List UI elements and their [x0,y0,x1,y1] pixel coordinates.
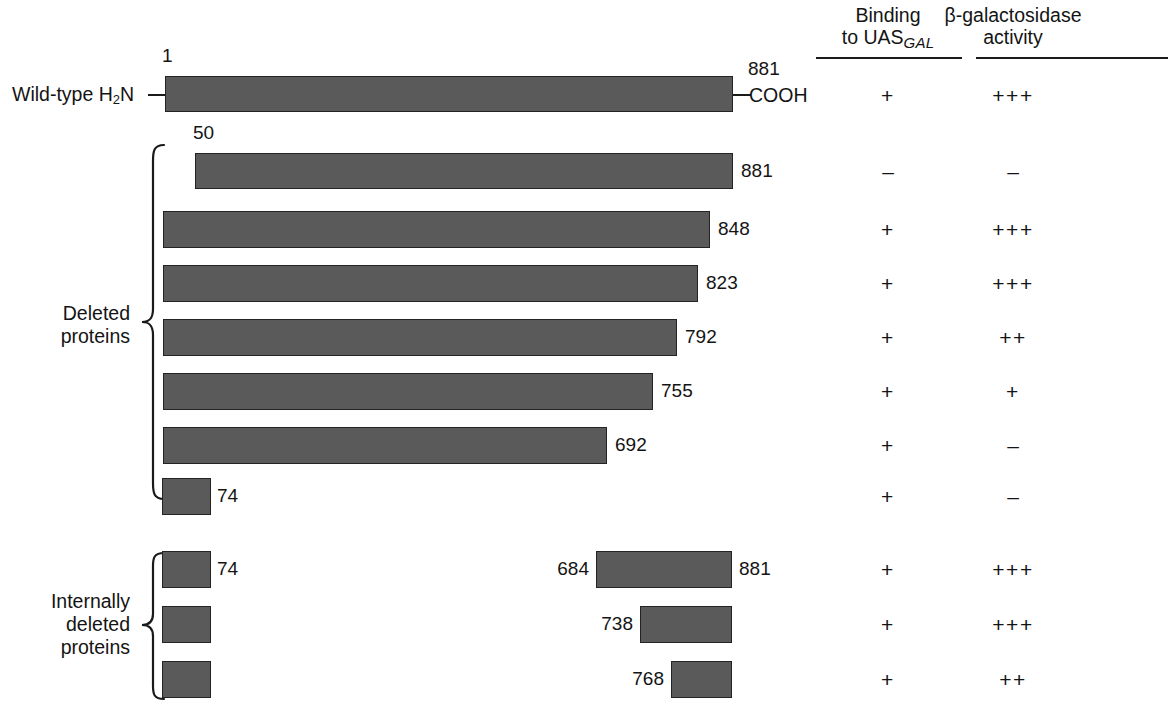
score-activity-deleted-2: +++ [992,219,1033,240]
score-binding-internal-1: + [881,559,895,580]
bar-start-label-deleted-1: 50 [193,123,214,142]
bar-deleted-6 [163,427,607,464]
bar-end-label-deleted-6: 692 [615,435,647,454]
score-activity-deleted-5: + [1006,381,1020,402]
column-header-activity: β-galactosidase activity [903,4,1123,48]
score-activity-internal-2: +++ [992,614,1033,635]
bar-start-label-internal-c-1: 684 [557,559,589,578]
score-activity-deleted-1: – [1007,161,1019,182]
bar-deleted-3 [163,265,698,302]
column-header-activity-line2: activity [903,26,1123,48]
score-activity-internal-3: ++ [999,669,1027,690]
bar-deleted-7 [162,478,211,515]
bar-deleted-1 [195,153,733,189]
bar-end-label-deleted-4: 792 [685,327,717,346]
bar-end-label-internal-n-1: 74 [217,559,238,578]
score-activity-deleted-3: +++ [992,273,1033,294]
score-activity-deleted-4: ++ [999,327,1027,348]
wild-type-start-number: 1 [162,46,173,65]
bar-internal-c-3 [671,661,732,698]
score-binding-deleted-6: + [881,435,895,456]
column-rule-activity [976,57,1168,59]
bar-end-label-deleted-3: 823 [706,273,738,292]
score-binding-deleted-2: + [881,219,895,240]
wild-type-n-connector [148,94,166,96]
bar-start-label-internal-c-2: 738 [601,614,633,633]
score-activity-wild-type: +++ [992,85,1033,106]
score-binding-deleted-7: + [881,486,895,507]
bar-end-label-deleted-7: 74 [217,486,238,505]
column-header-activity-line1: β-galactosidase [903,4,1123,26]
bar-end-label-deleted-2: 848 [718,219,750,238]
wild-type-label: Wild-type H2N [12,83,134,107]
wild-type-label-subscript: 2 [113,92,120,107]
score-activity-deleted-6: – [1007,435,1019,456]
bar-start-label-internal-c-3: 768 [632,669,664,688]
bar-internal-n-1 [162,551,211,588]
group-label-deleted-proteins: Deleted proteins [61,302,130,348]
score-binding-deleted-3: + [881,273,895,294]
bar-deleted-5 [163,373,653,410]
column-rule-binding [816,57,962,59]
score-binding-wild-type: + [881,85,895,106]
score-binding-internal-2: + [881,614,895,635]
score-binding-deleted-1: – [882,161,894,182]
bar-wild-type [165,76,733,112]
bar-deleted-4 [163,319,677,356]
bar-internal-n-3 [162,661,211,698]
score-activity-internal-1: +++ [992,559,1033,580]
wild-type-label-prefix: Wild-type H [12,83,113,105]
wild-type-c-terminus-label: COOH [749,84,808,107]
score-activity-deleted-7: – [1007,486,1019,507]
bar-end-label-deleted-5: 755 [661,381,693,400]
bar-internal-n-2 [162,606,211,643]
wild-type-end-number: 881 [748,59,780,78]
score-binding-deleted-4: + [881,327,895,348]
bar-internal-c-1 [596,551,732,588]
score-binding-internal-3: + [881,669,895,690]
score-binding-deleted-5: + [881,381,895,402]
bar-end-label-deleted-1: 881 [741,161,773,180]
group-label-internally-deleted-proteins: Internally deleted proteins [51,590,130,659]
column-header-binding-line2-text: to UAS [842,26,904,48]
bar-internal-c-2 [640,606,732,643]
bar-deleted-2 [163,211,710,248]
wild-type-label-suffix: N [120,83,134,105]
bar-end-label-internal-c-1: 881 [739,559,771,578]
